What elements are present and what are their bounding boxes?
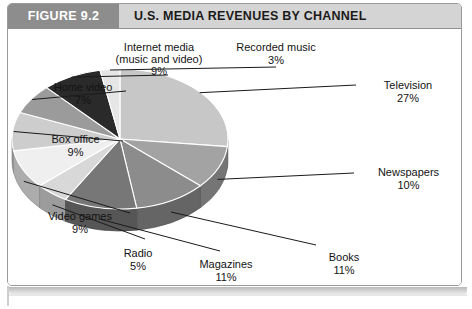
slice-label-video-games: Video games 9% (30, 210, 130, 235)
figure-title: U.S. MEDIA REVENUES BY CHANNEL (119, 4, 461, 28)
slice-label-television-pct: 27% (358, 92, 458, 105)
slice-label-magazines: Magazines 11% (176, 258, 276, 283)
slice-label-home-video: Home video 7% (33, 81, 133, 106)
slice-label-radio-pct: 5% (103, 260, 173, 273)
slice-label-internet-media-pct: 9% (104, 65, 214, 77)
slice-label-box-office: Box office 9% (28, 133, 123, 158)
slice-label-recorded-music: Recorded music 3% (221, 41, 331, 66)
chart-plot-area: Internet media (music and video) 9% Reco… (8, 29, 462, 286)
slice-label-video-games-name: Video games (48, 210, 112, 222)
slice-label-recorded-music-pct: 3% (221, 54, 331, 67)
slice-label-newspapers-pct: 10% (356, 179, 461, 192)
slice-label-television-name: Television (384, 79, 432, 91)
leader-line (171, 212, 316, 245)
slice-label-video-games-pct: 9% (30, 223, 130, 236)
slice-label-books-pct: 11% (304, 264, 384, 277)
slice-label-radio-name: Radio (124, 247, 153, 259)
slice-label-home-video-pct: 7% (33, 94, 133, 107)
slice-label-home-video-name: Home video (54, 81, 113, 93)
figure-header: FIGURE 9.2 U.S. MEDIA REVENUES BY CHANNE… (8, 4, 461, 29)
slice-label-internet-media-name2: (music and video) (116, 53, 203, 65)
slice-label-recorded-music-name: Recorded music (236, 41, 315, 53)
slice-label-internet-media: Internet media (music and video) 9% (104, 41, 214, 78)
slice-label-magazines-name: Magazines (199, 258, 252, 270)
slice-label-books-name: Books (329, 251, 360, 263)
slice-label-television: Television 27% (358, 79, 458, 104)
figure-drop-shadow (9, 287, 467, 294)
figure-drop-shadow-edge (9, 294, 467, 296)
slice-label-box-office-name: Box office (51, 133, 99, 145)
slice-label-magazines-pct: 11% (176, 271, 276, 284)
slice-label-box-office-pct: 9% (28, 146, 123, 159)
figure-number-tag: FIGURE 9.2 (8, 4, 119, 28)
slice-label-internet-media-name1: Internet media (124, 41, 194, 53)
leader-line (218, 173, 354, 179)
slice-label-newspapers-name: Newspapers (378, 166, 439, 178)
slice-label-books: Books 11% (304, 251, 384, 276)
slice-label-newspapers: Newspapers 10% (356, 166, 461, 191)
leader-line (200, 85, 356, 93)
figure-frame: FIGURE 9.2 U.S. MEDIA REVENUES BY CHANNE… (7, 3, 462, 286)
pie-slice (120, 69, 228, 147)
slice-label-radio: Radio 5% (103, 247, 173, 272)
